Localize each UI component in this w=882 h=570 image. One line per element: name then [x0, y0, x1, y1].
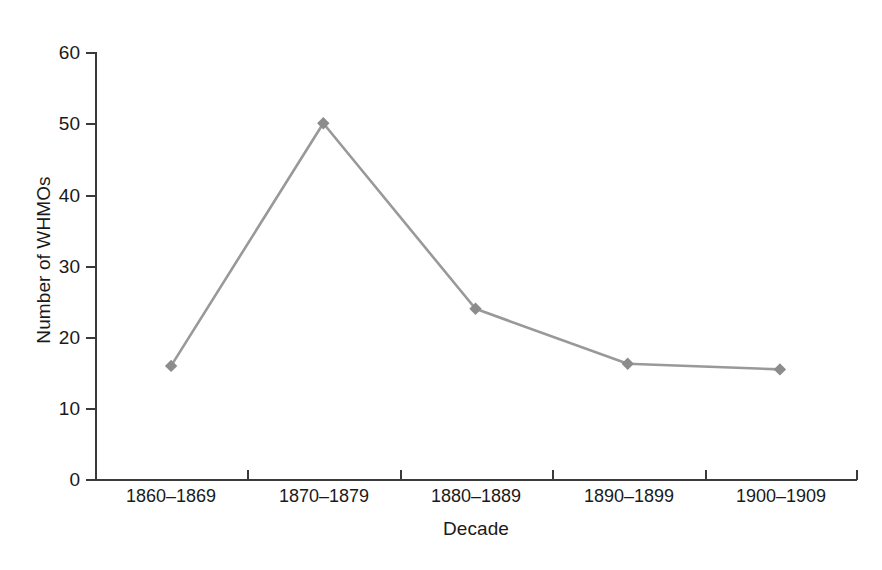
y-tick-label-30: 30: [16, 257, 80, 276]
y-tick-label-10: 10: [16, 399, 80, 418]
y-tick-label-0: 0: [16, 470, 80, 489]
y-tick-40: [86, 195, 96, 197]
x-axis-line: [95, 479, 857, 481]
x-tick-0: [95, 470, 97, 480]
data-point-1860–1869: [165, 360, 177, 372]
series-line: [171, 123, 780, 369]
y-tick-30: [86, 266, 96, 268]
data-point-1880–1889: [469, 303, 481, 315]
x-axis-label-1880-1889: 1880–1889: [396, 487, 556, 505]
y-tick-label-20: 20: [16, 328, 80, 347]
x-axis-title: Decade: [95, 518, 857, 540]
y-tick-label-40: 40: [16, 186, 80, 205]
x-axis-label-1860-1869: 1860–1869: [91, 487, 251, 505]
data-point-1900–1909: [774, 363, 786, 375]
x-tick-5: [856, 470, 858, 480]
data-point-1890–1899: [622, 358, 634, 370]
data-point-1870–1879: [317, 117, 329, 129]
y-tick-50: [86, 123, 96, 125]
y-tick-label-60: 60: [16, 43, 80, 62]
x-tick-3: [552, 470, 554, 480]
x-tick-2: [400, 470, 402, 480]
x-axis-label-1890-1899: 1890–1899: [549, 487, 709, 505]
y-tick-60: [86, 52, 96, 54]
series-markers: [165, 117, 786, 376]
chart-figure: Number of WHMOs 60 50 40 30 20 10 0 1860…: [0, 0, 882, 570]
y-tick-label-50: 50: [16, 114, 80, 133]
x-tick-4: [705, 470, 707, 480]
y-tick-20: [86, 337, 96, 339]
line-series-plot: [0, 0, 882, 570]
x-axis-label-1870-1879: 1870–1879: [244, 487, 404, 505]
x-axis-label-1900-1909: 1900–1909: [701, 487, 861, 505]
y-tick-10: [86, 408, 96, 410]
x-tick-1: [247, 470, 249, 480]
